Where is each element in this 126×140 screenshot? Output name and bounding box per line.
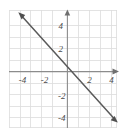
coordinate-plane-chart: -4 -2 2 4 4 2 -2 -4 bbox=[0, 0, 126, 140]
x-tick-label-pos2: 2 bbox=[87, 75, 92, 85]
x-tick-label-neg4: -4 bbox=[19, 75, 27, 85]
y-tick-label-pos2: 2 bbox=[59, 44, 64, 54]
y-tick-label-neg4: -4 bbox=[58, 113, 66, 123]
y-tick-label-neg2: -2 bbox=[58, 91, 66, 101]
plot-background bbox=[9, 10, 117, 128]
x-tick-label-pos4: 4 bbox=[109, 75, 114, 85]
y-tick-label-pos4: 4 bbox=[59, 21, 64, 31]
graph-figure: -4 -2 2 4 4 2 -2 -4 bbox=[0, 0, 126, 140]
x-tick-label-neg2: -2 bbox=[41, 75, 49, 85]
